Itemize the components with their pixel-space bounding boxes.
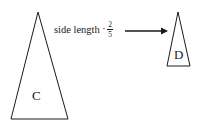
fraction-numerator: 2 — [107, 21, 113, 29]
scale-factor-annotation: side length · 2 5 — [54, 21, 113, 39]
diagram-canvas: C D side length · 2 5 — [0, 0, 205, 125]
triangle-scaling-figure — [0, 0, 205, 125]
fraction-denominator: 5 — [107, 31, 113, 39]
right-arrow-icon — [161, 28, 168, 35]
multiplication-dot-icon: · — [102, 24, 105, 34]
triangle-c-label: C — [32, 89, 41, 102]
side-length-text: side length — [54, 25, 100, 36]
triangle-d-label: D — [174, 48, 183, 61]
scale-factor-fraction: 2 5 — [107, 21, 113, 39]
